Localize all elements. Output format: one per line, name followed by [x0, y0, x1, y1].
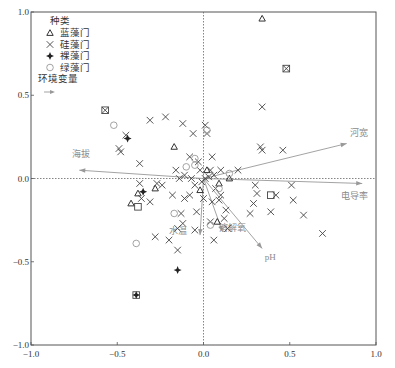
x-marker-icon	[193, 209, 200, 216]
env-vector-arrow	[204, 144, 347, 179]
arrowhead-icon	[198, 229, 203, 235]
env-vector-label: 水温	[169, 225, 187, 236]
y-tick-label: −0.5	[13, 257, 30, 267]
series-triangle	[128, 15, 266, 224]
x-marker-icon	[198, 179, 205, 186]
x-marker-icon	[174, 247, 181, 254]
legend-arrowhead-icon	[50, 90, 55, 94]
x-tick-label: 0.0	[198, 349, 210, 359]
legend-env-title: 环境变量	[38, 73, 78, 84]
x-tick-label: 0.5	[284, 349, 296, 359]
x-marker-icon	[190, 130, 197, 137]
x-marker-icon	[259, 104, 266, 111]
circle-marker-icon	[133, 240, 140, 247]
arrowhead-icon	[356, 181, 362, 186]
plus-marker-icon	[174, 266, 182, 274]
legend-entry-label: 硅藻门	[60, 39, 90, 50]
x-marker-icon	[290, 197, 297, 204]
legend: 种类蓝藻门硅藻门裸藻门绿藻门环境变量	[38, 15, 90, 94]
x-marker-icon	[166, 237, 173, 244]
triangle-marker-icon	[128, 200, 134, 206]
circle-marker-icon	[47, 64, 54, 71]
arrowhead-icon	[79, 168, 85, 173]
x-marker-icon	[252, 182, 259, 189]
circle-marker-icon	[207, 222, 214, 229]
circle-marker-icon	[183, 164, 190, 171]
x-marker-icon	[211, 237, 218, 244]
x-tick-label: 1.0	[370, 349, 382, 359]
y-tick-label: 0.5	[18, 90, 30, 100]
x-marker-icon	[288, 182, 295, 189]
env-vector-label: 海拔	[72, 148, 90, 159]
plus-marker-icon	[46, 52, 54, 60]
legend-entry-label: 裸藻门	[60, 50, 90, 61]
triangle-marker-icon	[47, 30, 53, 36]
triangle-marker-icon	[259, 15, 265, 21]
square-marker-icon	[135, 204, 142, 211]
x-marker-icon	[221, 215, 228, 222]
triangle-marker-icon	[171, 144, 177, 150]
x-tick-label: −1.0	[23, 349, 40, 359]
x-marker-icon	[154, 180, 161, 187]
x-marker-icon	[192, 227, 199, 234]
x-marker-icon	[209, 199, 216, 206]
x-marker-icon	[254, 190, 261, 197]
env-vector-label: 河宽	[350, 127, 368, 138]
x-marker-icon	[159, 182, 166, 189]
x-marker-icon	[136, 160, 143, 167]
env-vector-label: pH	[265, 252, 277, 262]
triangle-marker-icon	[135, 190, 141, 196]
x-marker-icon	[250, 200, 257, 207]
x-marker-icon	[209, 154, 216, 161]
x-marker-icon	[197, 167, 204, 174]
x-marker-icon	[280, 147, 287, 154]
y-tick-label: −1.0	[13, 340, 30, 350]
env-vector-label: 溶解氧	[219, 222, 246, 233]
x-marker-icon	[267, 209, 274, 216]
plus-marker-icon	[132, 291, 140, 299]
x-marker-icon	[152, 233, 159, 240]
legend-entry-label: 蓝藻门	[60, 27, 90, 38]
legend-entry-label: 绿藻门	[60, 62, 90, 73]
y-tick-label: 1.0	[18, 7, 30, 17]
x-marker-icon	[169, 192, 176, 199]
circle-marker-icon	[111, 122, 118, 129]
env-vector-label: 电导率	[341, 190, 368, 201]
x-marker-icon	[47, 41, 54, 48]
x-marker-icon	[283, 65, 290, 72]
y-tick-label: 0.0	[18, 174, 30, 184]
x-marker-icon	[117, 149, 124, 156]
x-marker-icon	[319, 230, 326, 237]
x-marker-icon	[259, 147, 266, 154]
x-marker-icon	[173, 167, 180, 174]
circle-marker-icon	[192, 162, 199, 169]
ordination-biplot: −1.0−0.50.00.51.01.00.50.0−0.5−1.0 河宽电导率…	[0, 0, 395, 368]
x-marker-icon	[178, 210, 185, 217]
x-marker-icon	[136, 180, 143, 187]
x-marker-icon	[180, 120, 187, 127]
x-marker-icon	[247, 210, 254, 217]
x-marker-icon	[217, 167, 224, 174]
x-marker-icon	[235, 167, 242, 174]
x-marker-icon	[217, 192, 224, 199]
x-marker-icon	[223, 207, 230, 214]
legend-title: 种类	[50, 15, 70, 26]
x-marker-icon	[162, 114, 169, 121]
triangle-marker-icon	[152, 185, 158, 191]
x-marker-icon	[102, 107, 109, 114]
x-tick-label: −0.5	[109, 349, 126, 359]
x-marker-icon	[147, 117, 154, 124]
circle-marker-icon	[204, 127, 211, 134]
x-marker-icon	[147, 199, 154, 206]
x-marker-icon	[192, 182, 199, 189]
circle-marker-icon	[192, 155, 199, 162]
circle-marker-icon	[171, 210, 178, 217]
x-marker-icon	[300, 212, 307, 219]
triangle-marker-icon	[214, 218, 220, 224]
